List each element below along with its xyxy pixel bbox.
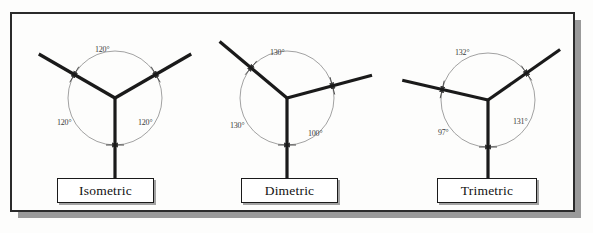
type-label-box-trimetric[interactable]: Trimetric <box>437 178 537 203</box>
angle-label-dimetric-right: 100° <box>308 129 322 138</box>
angle-label-isometric-left: 120° <box>57 118 71 127</box>
angle-label-isometric-right: 120° <box>138 118 152 127</box>
type-label-box-isometric[interactable]: Isometric <box>57 178 154 203</box>
axonometric-figure: Isometric Dimetric Trimetric 120° 120° 1… <box>0 0 593 233</box>
angle-label-dimetric-top: 130° <box>270 48 284 57</box>
type-label-box-dimetric[interactable]: Dimetric <box>241 178 338 203</box>
type-label-text-isometric: Isometric <box>79 183 132 199</box>
type-label-text-trimetric: Trimetric <box>461 183 513 199</box>
angle-label-isometric-top: 120° <box>95 45 109 54</box>
angle-label-trimetric-top: 132° <box>455 48 469 57</box>
type-label-text-dimetric: Dimetric <box>265 183 315 199</box>
angle-label-trimetric-left: 97° <box>438 128 449 137</box>
angle-label-trimetric-right: 131° <box>513 117 527 126</box>
angle-label-dimetric-left: 130° <box>230 121 244 130</box>
